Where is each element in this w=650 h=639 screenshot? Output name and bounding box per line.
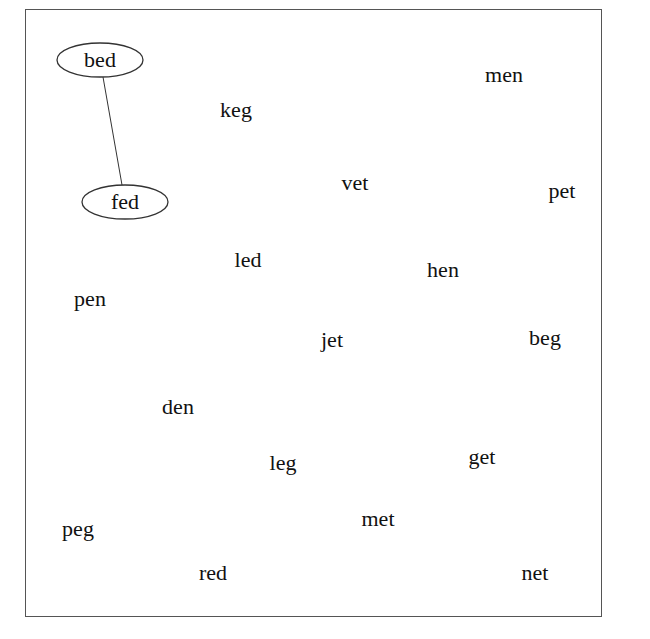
node-hen[interactable]: hen [427,259,459,281]
node-get[interactable]: get [469,446,496,468]
node-men[interactable]: men [485,64,523,86]
node-jet[interactable]: jet [321,329,343,351]
node-beg[interactable]: beg [529,327,561,349]
node-led[interactable]: led [235,249,262,271]
node-met[interactable]: met [362,508,395,530]
edge-bed-fed [103,77,122,185]
node-bed[interactable]: bed [84,49,116,71]
node-keg[interactable]: keg [220,99,252,121]
node-pet[interactable]: pet [549,180,576,202]
node-den[interactable]: den [162,396,194,418]
node-pen[interactable]: pen [74,288,106,310]
node-vet[interactable]: vet [342,172,369,194]
node-net[interactable]: net [522,562,549,584]
node-leg[interactable]: leg [270,452,297,474]
node-fed[interactable]: fed [111,191,139,213]
node-red[interactable]: red [199,562,227,584]
graph-canvas [0,0,650,639]
node-peg[interactable]: peg [62,518,94,540]
